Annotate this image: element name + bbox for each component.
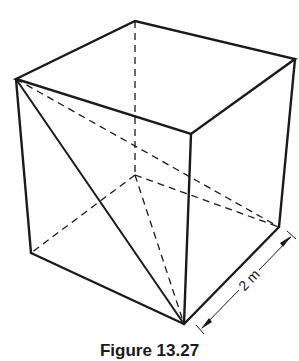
edge-right-vertical	[279, 59, 295, 227]
edge-front-vertical	[184, 134, 191, 324]
edge-bottom-right	[184, 227, 279, 324]
edge-bottom-left	[31, 253, 184, 324]
arrowhead-upper-icon	[280, 236, 291, 247]
hidden-body-diagonal	[16, 79, 279, 227]
edge-left-vertical	[16, 79, 31, 253]
hidden-edge-back-left	[31, 175, 135, 253]
top-face	[16, 21, 295, 134]
hidden-edge-back-right	[135, 175, 279, 227]
dimension-marker: 2 m	[196, 231, 296, 334]
dimension-tick-lower	[196, 325, 204, 334]
figure-caption: Figure 13.27	[0, 341, 299, 361]
dimension-label: 2 m	[235, 266, 263, 294]
hidden-base-diagonal	[135, 175, 184, 324]
face-diagonal	[16, 79, 184, 324]
